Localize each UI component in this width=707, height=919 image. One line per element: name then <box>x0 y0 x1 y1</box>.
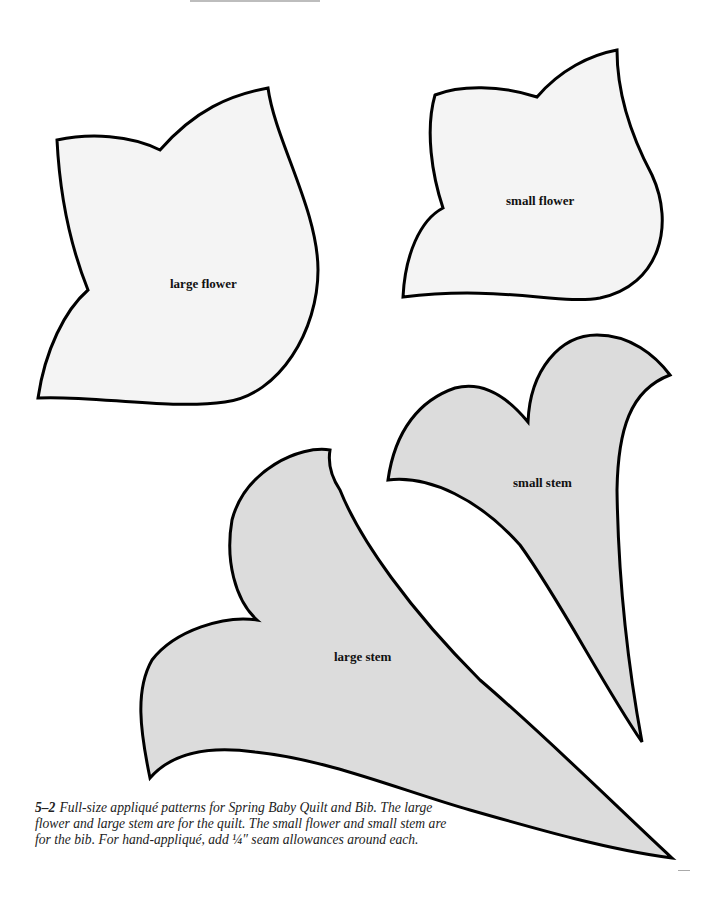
pattern-canvas <box>0 0 707 919</box>
small-stem-label: small stem <box>513 475 572 491</box>
figure-caption-text: Full-size appliqué patterns for Spring B… <box>35 800 446 847</box>
figure-caption: 5–2Full-size appliqué patterns for Sprin… <box>35 800 455 848</box>
page-edge-mark <box>678 870 690 871</box>
small-flower-label: small flower <box>506 193 574 209</box>
large-flower-label: large flower <box>170 276 237 292</box>
large-stem-label: large stem <box>334 649 391 665</box>
figure-number: 5–2 <box>35 800 55 815</box>
large-flower-shape <box>38 88 318 404</box>
small-flower-shape <box>403 50 662 300</box>
